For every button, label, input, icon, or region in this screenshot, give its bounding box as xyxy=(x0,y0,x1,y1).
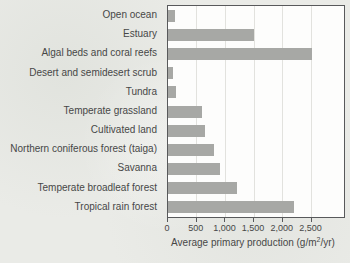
category-label: Temperate grassland xyxy=(0,101,161,120)
bar xyxy=(168,48,312,60)
gridline xyxy=(311,6,312,217)
x-axis-title: Average primary production (g/m2/yr) xyxy=(158,236,348,248)
bar xyxy=(168,201,294,213)
bar xyxy=(168,182,237,194)
bar xyxy=(168,125,205,137)
bar xyxy=(168,67,173,79)
gridline xyxy=(282,6,283,217)
x-tick-mark xyxy=(253,218,254,222)
bar xyxy=(168,144,214,156)
category-label: Temperate broadleaf forest xyxy=(0,178,161,197)
x-tick-mark xyxy=(196,218,197,222)
category-label: Tundra xyxy=(0,82,161,101)
bar xyxy=(168,163,220,175)
primary-production-bar-chart: Open oceanEstuaryAlgal beds and coral re… xyxy=(0,0,350,263)
x-tick-mark xyxy=(282,218,283,222)
category-label: Tropical rain forest xyxy=(0,197,161,216)
category-label: Estuary xyxy=(0,24,161,43)
bar xyxy=(168,29,254,41)
x-tick-mark xyxy=(167,218,168,222)
x-axis-title-text: Average primary production (g/m xyxy=(171,237,316,248)
bar xyxy=(168,86,176,98)
x-tick-mark xyxy=(311,218,312,222)
x-axis-title-unit: /yr) xyxy=(320,237,334,248)
category-label: Northern coniferous forest (taiga) xyxy=(0,139,161,158)
bar xyxy=(168,106,202,118)
category-label: Savanna xyxy=(0,158,161,177)
x-tick-label: 2,500 xyxy=(291,223,331,233)
x-tick-mark xyxy=(224,218,225,222)
category-label: Cultivated land xyxy=(0,120,161,139)
category-label: Desert and semidesert scrub xyxy=(0,63,161,82)
category-label: Algal beds and coral reefs xyxy=(0,43,161,62)
bar xyxy=(168,10,175,22)
plot-area xyxy=(167,5,345,218)
category-label: Open ocean xyxy=(0,5,161,24)
